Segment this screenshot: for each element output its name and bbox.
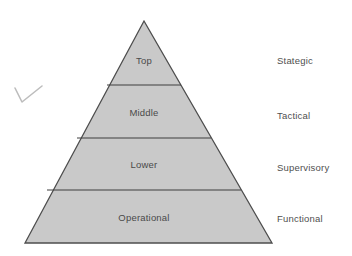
side-label-functional: Functional (277, 214, 323, 224)
tier-label-lower: Lower (131, 160, 158, 170)
side-label-tactical: Tactical (277, 111, 310, 121)
tier-label-operational: Operational (118, 213, 169, 223)
side-label-stategic: Stategic (277, 56, 313, 66)
tier-label-middle: Middle (129, 108, 158, 118)
side-label-supervisory: Supervisory (277, 163, 329, 173)
tier-label-top: Top (136, 56, 152, 66)
check-mark-icon (15, 86, 42, 102)
